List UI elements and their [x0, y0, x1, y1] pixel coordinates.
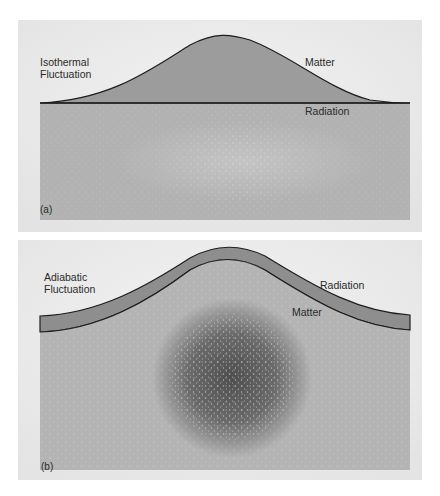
adiabatic-label: Adiabatic Fluctuation: [44, 271, 95, 295]
adiabatic-diagram: [0, 0, 440, 496]
matter-label-b: Matter: [292, 306, 322, 318]
radiation-label-b: Radiation: [320, 279, 364, 291]
density-blob: [170, 316, 294, 440]
panel-adiabatic: Adiabatic Fluctuation Radiation Matter (…: [0, 0, 440, 496]
panel-tag-b: (b): [41, 461, 53, 472]
